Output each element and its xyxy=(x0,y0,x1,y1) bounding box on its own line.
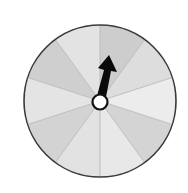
spinner-diagram xyxy=(0,0,188,193)
spinner xyxy=(0,0,188,193)
spinner-hub xyxy=(93,95,108,110)
